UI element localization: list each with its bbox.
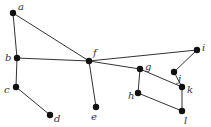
node-label-a: a <box>18 1 24 12</box>
node-i <box>194 47 200 53</box>
node-label-d: d <box>54 113 60 124</box>
node-label-i: i <box>202 42 205 53</box>
node-d <box>47 112 53 118</box>
node-c <box>13 84 19 90</box>
node-label-k: k <box>187 84 193 95</box>
node-a <box>10 10 16 16</box>
node-label-g: g <box>145 61 151 72</box>
node-k <box>179 84 185 90</box>
node-label-b: b <box>5 52 11 63</box>
node-g <box>137 66 143 72</box>
node-label-f: f <box>92 47 99 58</box>
edge-j-i <box>174 50 197 72</box>
node-label-c: c <box>4 84 10 95</box>
node-b <box>14 55 20 61</box>
node-label-l: l <box>184 115 187 126</box>
edge-g-h <box>138 69 140 93</box>
node-l <box>179 108 185 114</box>
edge-b-c <box>16 58 17 87</box>
edge-b-f <box>17 58 89 61</box>
edge-f-g <box>89 61 140 69</box>
edge-c-d <box>16 87 50 115</box>
edge-f-i <box>89 50 197 61</box>
node-f <box>86 58 92 64</box>
node-label-j: j <box>176 73 181 84</box>
edge-a-f <box>13 13 89 61</box>
node-e <box>93 104 99 110</box>
edge-h-l <box>138 93 182 111</box>
node-j <box>171 69 177 75</box>
edge-a-b <box>13 13 17 58</box>
node-h <box>135 90 141 96</box>
edges <box>13 13 197 115</box>
graph-diagram: abcdefghijkl <box>0 0 211 127</box>
edge-f-e <box>89 61 96 107</box>
node-label-h: h <box>128 90 134 101</box>
node-label-e: e <box>91 111 97 122</box>
